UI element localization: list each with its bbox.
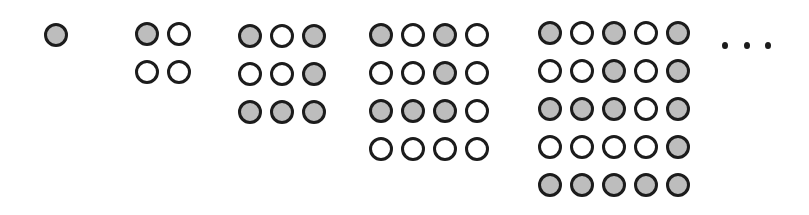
filled-circle-icon <box>666 173 690 197</box>
filled-circle-icon <box>238 24 262 48</box>
filled-circle-icon <box>369 23 393 47</box>
ellipsis-dot <box>722 42 728 49</box>
filled-circle-icon <box>433 61 457 85</box>
empty-circle-icon <box>465 23 489 47</box>
empty-circle-icon <box>634 97 658 121</box>
empty-circle-icon <box>634 59 658 83</box>
empty-circle-icon <box>270 24 294 48</box>
filled-circle-icon <box>433 23 457 47</box>
filled-circle-icon <box>369 99 393 123</box>
filled-circle-icon <box>666 97 690 121</box>
empty-circle-icon <box>570 135 594 159</box>
empty-circle-icon <box>270 62 294 86</box>
filled-circle-icon <box>602 173 626 197</box>
filled-circle-icon <box>302 62 326 86</box>
empty-circle-icon <box>401 23 425 47</box>
filled-circle-icon <box>666 135 690 159</box>
empty-circle-icon <box>433 137 457 161</box>
filled-circle-icon <box>538 21 562 45</box>
empty-circle-icon <box>538 135 562 159</box>
filled-circle-icon <box>135 22 159 46</box>
filled-circle-icon <box>570 97 594 121</box>
empty-circle-icon <box>634 21 658 45</box>
empty-circle-icon <box>401 137 425 161</box>
filled-circle-icon <box>602 59 626 83</box>
empty-circle-icon <box>570 59 594 83</box>
filled-circle-icon <box>270 100 294 124</box>
empty-circle-icon <box>570 21 594 45</box>
empty-circle-icon <box>401 61 425 85</box>
empty-circle-icon <box>602 135 626 159</box>
empty-circle-icon <box>167 22 191 46</box>
empty-circle-icon <box>465 137 489 161</box>
filled-circle-icon <box>433 99 457 123</box>
filled-circle-icon <box>666 59 690 83</box>
filled-circle-icon <box>602 97 626 121</box>
empty-circle-icon <box>634 135 658 159</box>
empty-circle-icon <box>369 61 393 85</box>
empty-circle-icon <box>135 60 159 84</box>
empty-circle-icon <box>238 62 262 86</box>
filled-circle-icon <box>666 21 690 45</box>
filled-circle-icon <box>538 173 562 197</box>
filled-circle-icon <box>44 23 68 47</box>
filled-circle-icon <box>634 173 658 197</box>
empty-circle-icon <box>167 60 191 84</box>
filled-circle-icon <box>401 99 425 123</box>
filled-circle-icon <box>302 24 326 48</box>
ellipsis-dot <box>744 42 750 49</box>
filled-circle-icon <box>238 100 262 124</box>
empty-circle-icon <box>369 137 393 161</box>
filled-circle-icon <box>570 173 594 197</box>
filled-circle-icon <box>302 100 326 124</box>
filled-circle-icon <box>602 21 626 45</box>
empty-circle-icon <box>465 61 489 85</box>
empty-circle-icon <box>465 99 489 123</box>
filled-circle-icon <box>538 97 562 121</box>
empty-circle-icon <box>538 59 562 83</box>
ellipsis-dot <box>765 42 771 49</box>
